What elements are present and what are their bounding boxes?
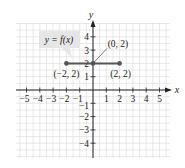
x-tick-label: 3	[131, 94, 136, 104]
y-tick-label: −3	[79, 125, 89, 135]
y-tick-label: −4	[79, 139, 89, 149]
y-tick-label: 1	[84, 72, 89, 82]
chart-svg: xy−5−4−3−2−112345−4−3−2−11234y = f(x)(0,…	[0, 0, 185, 168]
x-tick-label: −5	[19, 94, 29, 104]
x-tick-label: −3	[46, 94, 56, 104]
y-tick-label: 4	[84, 32, 89, 42]
x-axis-label: x	[174, 84, 180, 95]
x-tick-label: −2	[59, 94, 69, 104]
x-tick-label: 5	[157, 94, 162, 104]
data-point	[64, 61, 69, 66]
function-label: y = f(x)	[44, 35, 74, 46]
y-tick-label: 3	[84, 46, 89, 56]
y-axis-label: y	[88, 9, 94, 20]
x-tick-label: 2	[117, 94, 122, 104]
point-label-0-2: (0, 2)	[108, 39, 129, 50]
function-graph: xy−5−4−3−2−112345−4−3−2−11234y = f(x)(0,…	[0, 0, 185, 168]
x-axis-arrow-icon	[165, 88, 172, 93]
x-tick-label: 4	[144, 94, 149, 104]
x-tick-label: 1	[104, 94, 109, 104]
y-tick-label: −2	[79, 112, 89, 122]
data-point	[117, 61, 122, 66]
x-tick-label: −4	[33, 94, 43, 104]
y-tick-label: −1	[79, 101, 89, 111]
annotation-leader-line	[93, 48, 107, 63]
point-label-neg2-2: (−2, 2)	[53, 69, 79, 80]
point-label-2-2: (2, 2)	[110, 69, 131, 80]
